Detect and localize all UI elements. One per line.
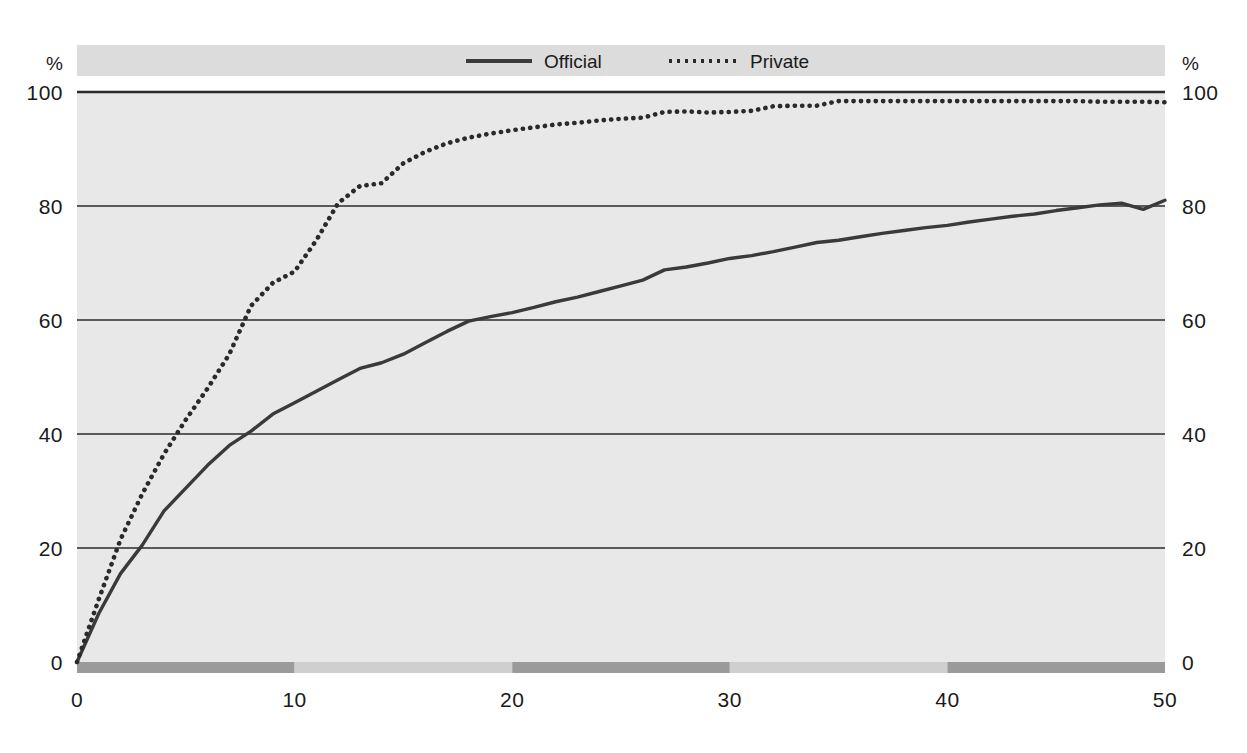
y-axis-left-unit-label: % <box>46 53 63 74</box>
y-axis-right-labels: 020406080100 <box>1182 81 1219 674</box>
chart-figure: 020406080100 020406080100 01020304050 % … <box>0 0 1247 753</box>
x-axis-labels: 01020304050 <box>71 688 1177 711</box>
x-tick-0: 0 <box>71 688 83 711</box>
y-tick-left-20: 20 <box>39 537 63 560</box>
y-tick-right-80: 80 <box>1182 195 1206 218</box>
axis-band-segment-2 <box>512 662 730 673</box>
axis-band-segment-0 <box>77 662 295 673</box>
y-tick-left-100: 100 <box>26 81 63 104</box>
y-tick-left-80: 80 <box>39 195 63 218</box>
x-tick-40: 40 <box>935 688 959 711</box>
y-tick-right-40: 40 <box>1182 423 1206 446</box>
y-axis-right-unit-label: % <box>1182 53 1199 74</box>
axis-band-segment-1 <box>295 662 513 673</box>
legend-background-strip <box>77 45 1165 76</box>
plot-area-background <box>77 92 1165 662</box>
legend-label-official: Official <box>544 51 602 72</box>
axis-band-segment-3 <box>730 662 948 673</box>
y-tick-left-40: 40 <box>39 423 63 446</box>
x-tick-10: 10 <box>282 688 306 711</box>
y-tick-right-100: 100 <box>1182 81 1219 104</box>
axis-band-segment-4 <box>947 662 1165 673</box>
x-tick-20: 20 <box>500 688 524 711</box>
line-chart-svg: 020406080100 020406080100 01020304050 % … <box>0 0 1247 753</box>
y-tick-left-0: 0 <box>51 651 63 674</box>
x-axis-band <box>77 662 1165 673</box>
y-tick-right-20: 20 <box>1182 537 1206 560</box>
y-axis-left-labels: 020406080100 <box>26 81 63 674</box>
y-tick-left-60: 60 <box>39 309 63 332</box>
y-tick-right-0: 0 <box>1182 651 1194 674</box>
x-tick-30: 30 <box>718 688 742 711</box>
y-tick-right-60: 60 <box>1182 309 1206 332</box>
x-tick-50: 50 <box>1153 688 1177 711</box>
legend-label-private: Private <box>750 51 809 72</box>
